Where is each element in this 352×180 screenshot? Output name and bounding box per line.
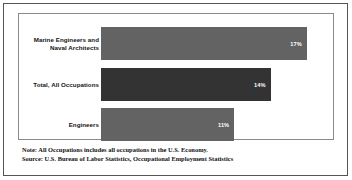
bar-row: Total, All Occupations14% [19, 68, 333, 101]
bar-category-label: Total, All Occupations [0, 81, 99, 89]
bar-category-label: Marine Engineers andNaval Architects [0, 36, 99, 51]
figure-container: Marine Engineers andNaval Architects17%T… [0, 0, 352, 180]
bar-value-label: 14% [254, 82, 266, 88]
plot-frame: Marine Engineers andNaval Architects17%T… [18, 13, 334, 140]
plot-area: Marine Engineers andNaval Architects17%T… [19, 14, 333, 139]
bar-category-label-line1: Marine Engineers and [0, 36, 99, 44]
bar-row: Marine Engineers andNaval Architects17% [19, 27, 333, 60]
bar-value-label: 11% [218, 122, 229, 128]
bar: 11% [101, 108, 234, 141]
source-line: Source: U.S. Bureau of Labor Statistics,… [22, 154, 332, 163]
bar-category-label: Engineers [0, 121, 99, 129]
bar-value-label: 17% [290, 41, 302, 47]
bar: 14% [101, 68, 271, 101]
bar-row: Engineers11% [19, 108, 333, 141]
footnotes: Note: All Occupations includes all occup… [22, 145, 332, 164]
note-line: Note: All Occupations includes all occup… [22, 145, 332, 154]
bar: 17% [101, 27, 307, 60]
bar-category-label-line2: Naval Architects [0, 44, 99, 52]
